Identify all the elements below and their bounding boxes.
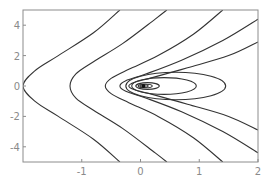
- contour-line-open-2: [105, 10, 223, 162]
- y-tick-label: -4: [10, 142, 20, 153]
- y-axis: 420-2-4: [10, 20, 26, 153]
- contour-lines: [23, 10, 258, 162]
- y-tick-label: -2: [10, 111, 20, 122]
- plot-frame: [23, 10, 258, 162]
- y-tick-label: 0: [14, 81, 20, 92]
- contour-plot: -1012 420-2-4: [0, 0, 269, 182]
- contour-line-open-3: [120, 19, 258, 153]
- singular-point-marker: [141, 84, 145, 88]
- x-tick-label: 2: [255, 166, 261, 177]
- y-tick-label: 4: [14, 20, 20, 31]
- contour-line-closed-2: [136, 83, 160, 90]
- x-tick-label: 0: [137, 166, 143, 177]
- x-tick-label: 1: [196, 166, 202, 177]
- y-tick-label: 2: [14, 51, 20, 62]
- x-tick-label: -1: [77, 166, 87, 177]
- contour-line-closed-1: [126, 72, 226, 99]
- contour-line-closed-0: [132, 78, 197, 95]
